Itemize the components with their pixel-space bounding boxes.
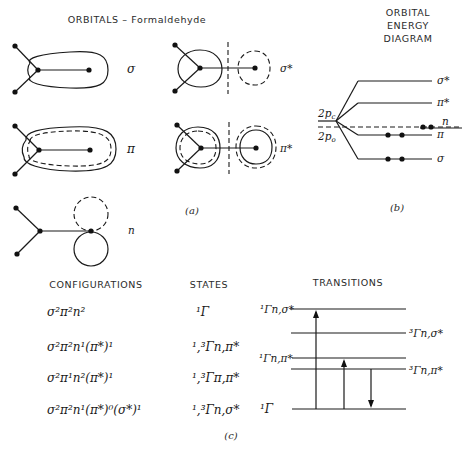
config-row-3: σ²π¹n²(π*)¹ xyxy=(47,371,113,385)
level-pi-star: π* xyxy=(436,96,450,108)
atomic-level-2po: 2po xyxy=(317,130,336,144)
caption-b: (b) xyxy=(390,202,404,213)
pi-star-label: π* xyxy=(279,142,293,154)
state-row-4: ¹,³Γn,σ* xyxy=(192,403,240,417)
sigma-orbital-sketch xyxy=(12,43,108,94)
level-n: n xyxy=(442,115,449,127)
sigma-star-label-text: σ* xyxy=(280,62,293,74)
energy-diagram-title-line-1: ORBITAL xyxy=(386,7,431,18)
transition-level-3-n-pi-star: ³Γn,π* xyxy=(409,364,443,376)
pi-star-orbital-sketch xyxy=(174,122,276,174)
transition-level-3-n-sigma-star: ³Γn,σ* xyxy=(409,327,444,339)
energy-diagram-title-line-2: ENERGY xyxy=(387,20,429,31)
caption-a: (a) xyxy=(185,205,199,216)
n-label: n xyxy=(128,224,135,236)
formaldehyde-orbital-figure: ORBITALS – Formaldehyde ORBITAL ENERGY D… xyxy=(0,0,476,452)
energy-diagram-title-line-3: DIAGRAM xyxy=(384,33,433,44)
pi-star-label-text: π* xyxy=(279,142,293,154)
state-row-3: ¹,³Γπ,π* xyxy=(192,371,239,385)
header-transitions: TRANSITIONS xyxy=(312,277,383,288)
atomic-level-2pc: 2pc xyxy=(317,107,335,121)
config-row-4: σ²π²n¹(π*)⁰(σ*)¹ xyxy=(47,403,142,417)
state-row-1: ¹Γ xyxy=(196,305,210,319)
transition-level-1-n-sigma-star: ¹Γn,σ* xyxy=(260,303,295,315)
pi-orbital-sketch xyxy=(12,123,116,176)
caption-c: (c) xyxy=(224,430,238,441)
level-sigma: σ xyxy=(437,152,445,164)
transition-level-ground: ¹Γ xyxy=(260,402,274,416)
pi-label: π xyxy=(126,142,136,156)
n-orbital-sketch xyxy=(13,197,108,266)
sigma-star-label: σ* xyxy=(280,62,293,74)
orbital-energy-diagram xyxy=(318,81,462,162)
header-states: STATES xyxy=(190,279,228,290)
header-configurations: CONFIGURATIONS xyxy=(49,279,142,290)
orbitals-title: ORBITALS – Formaldehyde xyxy=(68,14,207,25)
sigma-label: σ xyxy=(127,62,136,76)
config-row-1: σ²π²n² xyxy=(47,305,85,319)
sigma-star-orbital-sketch xyxy=(172,42,270,94)
transition-level-1-n-pi-star: ¹Γn,π* xyxy=(259,352,293,364)
config-row-2: σ²π²n¹(π*)¹ xyxy=(47,340,113,354)
transitions-diagram xyxy=(290,309,406,409)
level-sigma-star: σ* xyxy=(437,74,450,86)
level-pi: π xyxy=(436,128,445,140)
state-row-2: ¹,³Γn,π* xyxy=(192,340,239,354)
